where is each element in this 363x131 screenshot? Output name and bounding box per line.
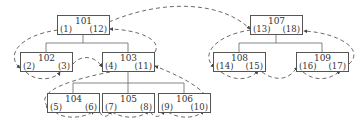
tree-node-108: 108 (14) (15) xyxy=(213,52,266,72)
node-right-label: (11) xyxy=(135,61,152,71)
node-left-label: (9) xyxy=(161,102,173,112)
node-right-label: (15) xyxy=(246,61,263,71)
node-left-label: (7) xyxy=(105,102,117,112)
node-left-label: (1) xyxy=(60,24,72,34)
tree-node-105: 105 (7) (8) xyxy=(102,93,155,113)
node-left-label: (14) xyxy=(216,61,233,71)
tree-edges xyxy=(46,34,322,93)
tree-node-103: 103 (4) (11) xyxy=(102,52,155,72)
tree-node-109: 109 (16) (17) xyxy=(296,52,349,72)
node-left-label: (16) xyxy=(299,61,316,71)
node-left-label: (4) xyxy=(105,61,117,71)
node-right-label: (6) xyxy=(85,102,97,112)
node-right-label: (18) xyxy=(283,24,300,34)
tree-node-104: 104 (5) (6) xyxy=(47,93,100,113)
tree-node-106: 106 (9) (10) xyxy=(158,93,211,113)
node-left-label: (13) xyxy=(253,24,270,34)
node-right-label: (10) xyxy=(191,102,208,112)
node-right-label: (8) xyxy=(140,102,152,112)
node-right-label: (3) xyxy=(58,61,70,71)
tree-node-101: 101 (1) (12) xyxy=(57,15,110,35)
node-right-label: (17) xyxy=(329,61,346,71)
tree-node-107: 107 (13) (18) xyxy=(250,15,303,35)
tree-node-102: 102 (2) (3) xyxy=(20,52,73,72)
node-left-label: (2) xyxy=(23,61,35,71)
node-right-label: (12) xyxy=(90,24,107,34)
node-left-label: (5) xyxy=(50,102,62,112)
